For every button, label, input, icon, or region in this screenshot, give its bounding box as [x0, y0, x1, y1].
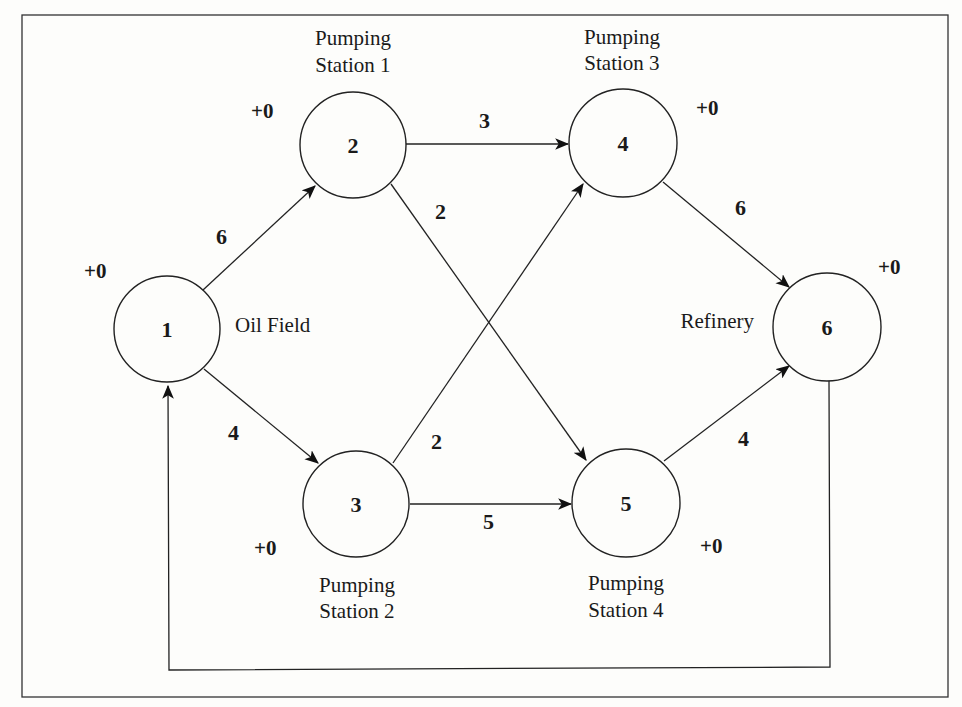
node-4-supply: +0	[696, 96, 718, 120]
node-5-caption-line2: Station 4	[588, 598, 664, 622]
edges	[168, 144, 830, 670]
edge-label-3-5: 5	[483, 509, 494, 534]
edge-label-5-6: 4	[738, 426, 749, 451]
node-2-label: 2	[348, 133, 359, 158]
edge-6-1-return	[168, 381, 830, 670]
edge-4-6	[663, 182, 789, 287]
node-1: 1 +0 Oil Field	[84, 259, 311, 382]
edge-1-3	[204, 369, 318, 463]
node-3-caption-line1: Pumping	[319, 573, 395, 597]
node-6-caption: Refinery	[681, 309, 755, 333]
edge-label-1-2: 6	[216, 224, 227, 249]
node-4-caption-line2: Station 3	[584, 51, 659, 75]
node-3: 3 +0 Pumping Station 2	[254, 451, 409, 623]
edge-label-3-4: 2	[431, 429, 442, 454]
node-4: 4 +0 Pumping Station 3	[569, 25, 718, 197]
edge-label-2-5: 2	[435, 199, 446, 224]
node-6-label: 6	[822, 315, 833, 340]
edge-label-2-4: 3	[479, 108, 490, 133]
edge-5-6	[664, 366, 789, 461]
node-6: 6 +0 Refinery	[681, 255, 901, 381]
node-3-supply: +0	[254, 536, 276, 560]
node-4-caption-line1: Pumping	[584, 25, 660, 49]
node-2-caption-line2: Station 1	[315, 53, 390, 77]
node-4-label: 4	[618, 131, 629, 156]
node-6-supply: +0	[878, 255, 900, 279]
node-3-caption-line2: Station 2	[319, 599, 394, 623]
network-diagram: 6 4 3 2 2 5 6 4 1 +0 Oil Field 2 +0 Pump…	[0, 0, 962, 707]
node-1-supply: +0	[84, 259, 106, 283]
edge-label-4-6: 6	[735, 195, 746, 220]
node-5-label: 5	[621, 491, 632, 516]
node-5-caption-line1: Pumping	[588, 571, 664, 595]
node-3-label: 3	[351, 492, 362, 517]
node-5: 5 +0 Pumping Station 4	[572, 449, 722, 622]
node-2: 2 +0 Pumping Station 1	[251, 26, 406, 198]
node-1-label: 1	[162, 317, 173, 342]
edge-label-1-3: 4	[228, 420, 239, 445]
node-5-supply: +0	[700, 534, 722, 558]
edge-3-4	[393, 184, 583, 463]
node-1-caption: Oil Field	[235, 313, 311, 337]
node-2-supply: +0	[251, 99, 273, 123]
node-2-caption-line1: Pumping	[315, 26, 391, 50]
